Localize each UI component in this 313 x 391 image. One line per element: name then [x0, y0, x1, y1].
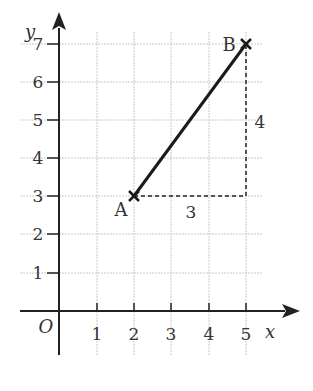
grid — [20, 32, 262, 355]
y-tick-label: 3 — [33, 186, 44, 206]
x-tick-label: 5 — [241, 324, 252, 344]
y-tick-label: 2 — [33, 224, 44, 244]
x-tick-label: 1 — [92, 324, 103, 344]
x-tick-label: 4 — [204, 324, 215, 344]
coordinate-diagram: 1 2 3 4 5 7 6 5 4 3 2 1 y x O — [0, 0, 313, 391]
y-tick-label: 6 — [33, 72, 44, 92]
y-tick-label: 4 — [33, 148, 44, 168]
origin-label: O — [39, 316, 54, 337]
diagram-svg: 1 2 3 4 5 7 6 5 4 3 2 1 y x O — [0, 0, 313, 391]
y-tick-label: 5 — [33, 110, 44, 130]
x-tick-label: 2 — [129, 324, 140, 344]
point-a-label: A — [114, 199, 129, 220]
y-tick-label: 1 — [33, 263, 44, 283]
x-axis-label: x — [265, 321, 275, 342]
point-b-label: B — [222, 34, 235, 55]
horizontal-leg-label: 3 — [186, 202, 197, 222]
y-tick-labels: 7 6 5 4 3 2 1 — [33, 34, 44, 283]
y-axis-label: y — [24, 21, 36, 42]
x-tick-labels: 1 2 3 4 5 — [92, 324, 252, 344]
y-axis-arrow-icon — [52, 12, 66, 30]
vertical-leg-label: 4 — [255, 112, 266, 132]
x-tick-label: 3 — [166, 324, 177, 344]
